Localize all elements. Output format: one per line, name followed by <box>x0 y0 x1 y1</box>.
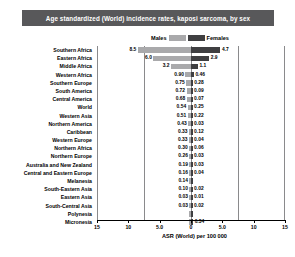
chart-title-bar: Age standardized (World) incidence rates… <box>22 10 274 26</box>
bar-female <box>191 154 193 159</box>
bar-track: 0.14 <box>97 177 285 185</box>
category-label: Northern Africa <box>54 144 92 152</box>
value-label-female: 0.04 <box>194 136 204 144</box>
value-label-female: 0.28 <box>194 79 204 87</box>
bar-row: World0.540.25 <box>0 103 295 111</box>
value-label-male: 8.5 <box>129 46 136 54</box>
category-label: Polynesia <box>68 210 92 218</box>
category-label: World <box>77 103 92 111</box>
x-tick-mark <box>160 220 161 223</box>
bar-row: South America0.720.09 <box>0 87 295 95</box>
category-label: Caribbean <box>67 128 92 136</box>
category-label: Western Africa <box>56 71 92 79</box>
bar-female <box>191 187 193 192</box>
bar-track: 0.540.25 <box>97 103 285 111</box>
value-label-female: 2.9 <box>211 54 218 62</box>
x-tick-mark <box>222 220 223 223</box>
x-tick-mark <box>285 220 286 223</box>
value-label-female: 0.46 <box>195 71 205 79</box>
bar-female <box>191 129 193 134</box>
value-label-female: 0.04 <box>194 169 204 177</box>
bar-track: 0.680.07 <box>97 95 285 103</box>
bar-female <box>191 97 193 102</box>
value-label-female: 0.22 <box>194 112 204 120</box>
bar-male <box>138 47 191 52</box>
chart-container: Age standardized (World) incidence rates… <box>0 0 295 257</box>
chart-title: Age standardized (World) incidence rates… <box>46 15 250 22</box>
x-tick-label: 5.0 <box>219 224 226 230</box>
bar-row: Northern Africa0.300.06 <box>0 144 295 152</box>
value-label-male: 0.33 <box>178 128 188 136</box>
bar-row: Central and Eastern Europe0.160.04 <box>0 169 295 177</box>
value-label-male: 6.0 <box>145 54 152 62</box>
bar-female <box>191 211 193 216</box>
category-label: Western Asia <box>59 112 92 120</box>
legend-swatch-males <box>169 35 186 41</box>
bar-track <box>97 210 285 218</box>
bar-rows: Southern Africa8.54.7Eastern Africa6.02.… <box>0 46 295 226</box>
value-label-female: 0.06 <box>194 144 204 152</box>
x-tick-label: 15 <box>94 224 100 230</box>
value-label-female: 1.1 <box>199 62 206 70</box>
value-label-female: 0.03 <box>194 161 204 169</box>
bar-row: Southern Africa8.54.7 <box>0 46 295 54</box>
value-label-female: 0.25 <box>194 103 204 111</box>
bar-female <box>191 64 198 69</box>
bar-track: 0.720.09 <box>97 87 285 95</box>
x-tick-mark <box>191 220 192 223</box>
bar-female <box>191 47 220 52</box>
value-label-female: 0.09 <box>194 87 204 95</box>
x-tick-label: 0 <box>190 224 193 230</box>
bar-track: 0.510.22 <box>97 112 285 120</box>
bar-male <box>171 64 191 69</box>
category-label: Northern Europe <box>51 152 92 160</box>
bar-female <box>191 121 193 126</box>
bar-row: Polynesia <box>0 210 295 218</box>
bar-row: Western Asia0.510.22 <box>0 112 295 120</box>
bar-track: 0.190.03 <box>97 161 285 169</box>
category-label: South-Central Asia <box>46 202 93 210</box>
value-label-male: 0.43 <box>177 120 187 128</box>
bar-female <box>191 178 193 183</box>
bar-track: 8.54.7 <box>97 46 285 54</box>
category-label: Melanesia <box>67 177 92 185</box>
legend-label-females: Females <box>207 35 229 41</box>
x-tick-mark <box>254 220 255 223</box>
bar-row: Caribbean0.330.12 <box>0 128 295 136</box>
legend-label-males: Males <box>151 35 167 41</box>
category-label: Central America <box>52 95 92 103</box>
bar-row: South-Central Asia0.030.02 <box>0 202 295 210</box>
bar-female <box>191 56 209 61</box>
bar-track: 0.160.04 <box>97 169 285 177</box>
value-label-female: 0.03 <box>194 152 204 160</box>
bar-female <box>191 113 193 118</box>
value-label-male: 0.16 <box>178 169 188 177</box>
bar-row: Melanesia0.14 <box>0 177 295 185</box>
bar-row: Southern Europe0.750.28 <box>0 79 295 87</box>
category-label: Northern America <box>48 120 92 128</box>
value-label-male: 0.10 <box>178 185 188 193</box>
bar-row: Eastern Africa6.02.9 <box>0 54 295 62</box>
bar-track: 0.100.02 <box>97 185 285 193</box>
bar-row: Middle Africa3.21.1 <box>0 62 295 70</box>
bar-track: 0.430.03 <box>97 120 285 128</box>
x-tick-label: 10 <box>251 224 257 230</box>
bar-female <box>191 105 193 110</box>
value-label-male: 3.2 <box>163 62 170 70</box>
x-axis-title-wrap: ASR (World) per 100 000 <box>0 233 295 239</box>
bar-male <box>153 56 191 61</box>
category-label: Eastern Africa <box>57 54 92 62</box>
value-label-male: 0.03 <box>178 193 188 201</box>
bar-female <box>191 203 193 208</box>
value-label-male: 0.54 <box>177 103 187 111</box>
bar-row: South-Eastern Asia0.100.02 <box>0 185 295 193</box>
bar-female <box>191 195 193 200</box>
bar-track: 0.030.02 <box>97 202 285 210</box>
category-label: Southern Africa <box>53 46 92 54</box>
value-label-male: 0.90 <box>174 71 184 79</box>
bar-female <box>191 137 193 142</box>
bar-female <box>191 88 193 93</box>
value-label-female: 0.02 <box>194 185 204 193</box>
x-tick-mark <box>128 220 129 223</box>
category-label: Middle Africa <box>60 62 92 70</box>
